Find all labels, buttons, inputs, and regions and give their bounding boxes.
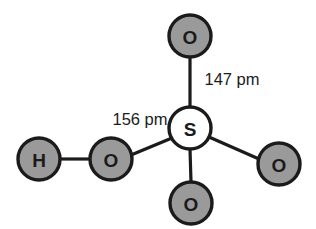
molecule-canvas: O O O O H S: [0, 0, 316, 229]
atom-oxygen-bottom: O: [170, 182, 212, 224]
atom-label-oxygen-top: O: [183, 27, 198, 48]
atom-label-oxygen-right: O: [272, 155, 287, 176]
bond-sulfur-oxygen-right: [209, 137, 259, 159]
bond-length-label-147: 147 pm: [204, 70, 259, 88]
bond-sulfur-oxygen-left: [131, 138, 172, 155]
atom-sulfur-center: S: [169, 107, 211, 149]
atom-oxygen-right: O: [258, 143, 300, 185]
atom-label-oxygen-left: O: [104, 150, 119, 171]
atom-hydrogen: H: [18, 138, 60, 180]
bond-length-label-156: 156 pm: [112, 110, 167, 128]
atom-label-sulfur: S: [184, 119, 197, 140]
atom-oxygen-top: O: [169, 15, 211, 57]
bond-sulfur-oxygen-bottom: [190, 149, 191, 182]
atom-label-oxygen-bottom: O: [184, 194, 199, 215]
atom-label-hydrogen: H: [32, 150, 46, 171]
atom-oxygen-left: O: [90, 138, 132, 180]
molecule-diagram: O O O O H S: [0, 0, 316, 229]
